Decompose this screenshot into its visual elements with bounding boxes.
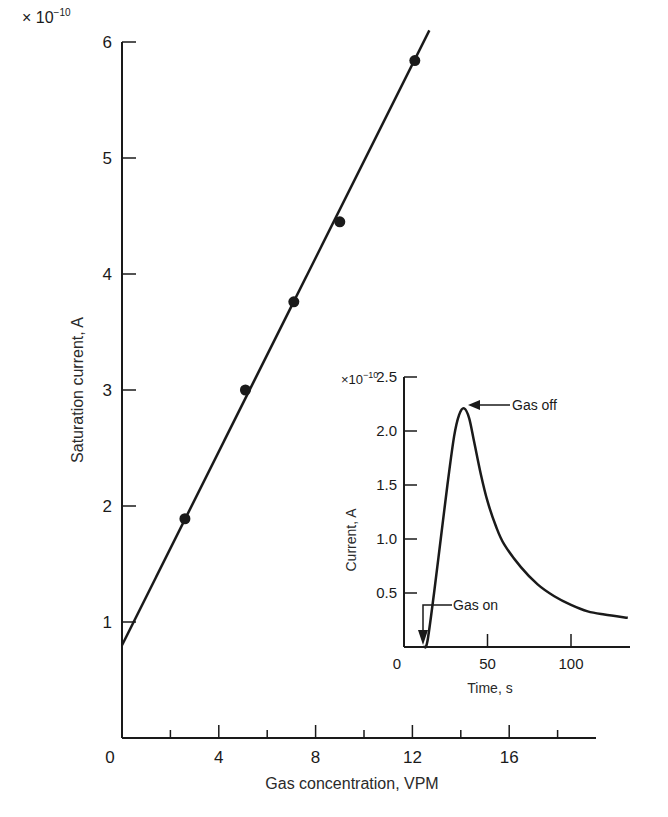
main-y-multiplier: × 10−10 bbox=[22, 7, 71, 26]
gas-off-arrow-icon bbox=[468, 400, 480, 410]
main-series bbox=[122, 30, 429, 645]
inset-y-multiplier: ×10−10 bbox=[341, 370, 378, 387]
main-y-axis-title: Saturation current, A bbox=[69, 317, 86, 463]
data-point bbox=[288, 296, 299, 307]
data-point bbox=[334, 216, 345, 227]
main-y-tick-label: 1 bbox=[103, 613, 112, 632]
inset-y-axis-title: Current, A bbox=[343, 508, 359, 572]
data-point bbox=[409, 55, 420, 66]
main-axes bbox=[122, 42, 596, 738]
inset-y-tick-label: 1.5 bbox=[376, 476, 397, 493]
inset-x-tick-label: 50 bbox=[479, 655, 496, 672]
fit-line bbox=[122, 30, 429, 645]
inset-axes bbox=[404, 377, 630, 647]
inset-x-axis-title: Time, s bbox=[467, 680, 512, 696]
inset-y-ticks: 0.51.01.52.02.5 bbox=[376, 368, 417, 601]
main-x-tick-label: 4 bbox=[214, 748, 223, 767]
main-x-tick-label: 12 bbox=[403, 748, 422, 767]
data-point bbox=[179, 513, 190, 524]
main-x-tick-label: 16 bbox=[500, 748, 519, 767]
figure: 123456 0481216 × 10−10 Saturation curren… bbox=[0, 0, 668, 817]
main-x-axis-title: Gas concentration, VPM bbox=[265, 775, 438, 792]
main-x-tick-label: 8 bbox=[311, 748, 320, 767]
inset-y-tick-label: 1.0 bbox=[376, 530, 397, 547]
inset-x-tick-label: 0 bbox=[393, 655, 401, 672]
inset-y-tick-label: 2.5 bbox=[376, 368, 397, 385]
main-y-tick-label: 3 bbox=[103, 381, 112, 400]
gas-on-arrow-line bbox=[423, 605, 452, 634]
main-y-tick-label: 5 bbox=[103, 149, 112, 168]
inset-x-tick-label: 100 bbox=[558, 655, 583, 672]
inset-y-tick-label: 2.0 bbox=[376, 422, 397, 439]
inset-y-tick-label: 0.5 bbox=[376, 584, 397, 601]
gas-on-label: Gas on bbox=[453, 597, 498, 613]
gas-off-label: Gas off bbox=[512, 397, 557, 413]
main-y-ticks: 123456 bbox=[103, 33, 136, 632]
main-x-tick-label: 0 bbox=[105, 748, 114, 767]
main-y-tick-label: 2 bbox=[103, 497, 112, 516]
main-y-tick-label: 6 bbox=[103, 33, 112, 52]
data-point bbox=[240, 385, 251, 396]
inset-chart: 0.51.01.52.02.5 050100 ×10−10 Current, A… bbox=[341, 368, 630, 696]
main-chart: 123456 0481216 × 10−10 Saturation curren… bbox=[22, 7, 596, 792]
gas-off-annotation: Gas off bbox=[468, 397, 557, 413]
main-x-ticks: 0481216 bbox=[105, 725, 557, 767]
main-y-tick-label: 4 bbox=[103, 265, 112, 284]
